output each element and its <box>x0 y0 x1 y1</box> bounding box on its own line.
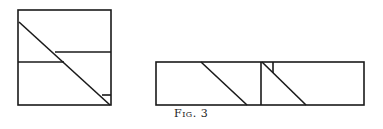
left-square-outline <box>18 10 111 105</box>
figure-caption: Fig. 3 <box>174 107 208 120</box>
right-rectangle-diagonal-left <box>201 62 247 105</box>
right-rectangle-outline <box>156 62 364 105</box>
right-rectangle-diagonal-right <box>262 62 306 105</box>
left-square-diagonal <box>19 22 110 105</box>
left-square-figure <box>18 10 111 105</box>
right-rectangle-figure <box>156 62 364 105</box>
